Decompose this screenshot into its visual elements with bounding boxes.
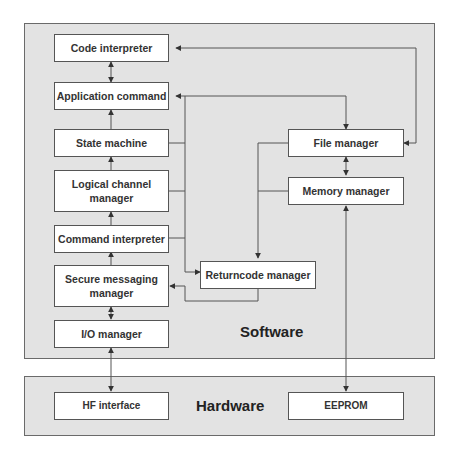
file-manager-node: File manager (288, 129, 404, 157)
secure-messaging-manager-node: Secure messaging manager (54, 265, 169, 307)
code-interpreter-label: Code interpreter (71, 41, 153, 55)
state-machine-label: State machine (76, 136, 147, 150)
io-manager-node: I/O manager (54, 320, 169, 348)
hf-interface-label: HF interface (83, 399, 141, 413)
application-command-label: Application command (57, 89, 167, 103)
returncode-manager-label: Returncode manager (205, 268, 310, 282)
code-interpreter-node: Code interpreter (54, 34, 169, 62)
file-manager-label: File manager (314, 136, 379, 150)
memory-manager-label: Memory manager (303, 184, 390, 198)
hardware-label: Hardware (196, 397, 264, 414)
secure-messaging-manager-label-2: manager (90, 286, 134, 300)
eeprom-node: EEPROM (288, 392, 404, 420)
hf-interface-node: HF interface (54, 392, 169, 420)
logical-channel-manager-label-1: Logical channel (72, 177, 151, 191)
state-machine-node: State machine (54, 129, 169, 157)
memory-manager-node: Memory manager (288, 177, 404, 205)
io-manager-label: I/O manager (81, 327, 142, 341)
application-command-node: Application command (54, 82, 169, 110)
logical-channel-manager-node: Logical channel manager (54, 170, 169, 212)
eeprom-label: EEPROM (324, 399, 367, 413)
logical-channel-manager-label-2: manager (90, 191, 134, 205)
software-label: Software (240, 323, 303, 340)
returncode-manager-node: Returncode manager (200, 261, 316, 289)
secure-messaging-manager-label-1: Secure messaging (65, 272, 158, 286)
command-interpreter-node: Command interpreter (54, 225, 169, 253)
command-interpreter-label: Command interpreter (58, 232, 165, 246)
